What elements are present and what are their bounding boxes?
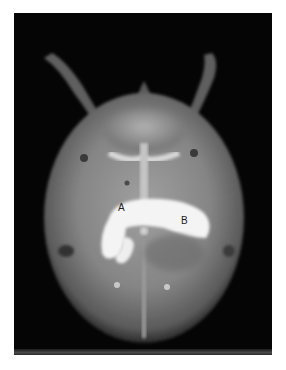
label-a: A (118, 203, 125, 213)
radiograph-frame: A B (14, 13, 272, 355)
film-edge (14, 349, 272, 355)
turtle-radiograph (14, 13, 272, 355)
label-b: B (181, 216, 188, 226)
